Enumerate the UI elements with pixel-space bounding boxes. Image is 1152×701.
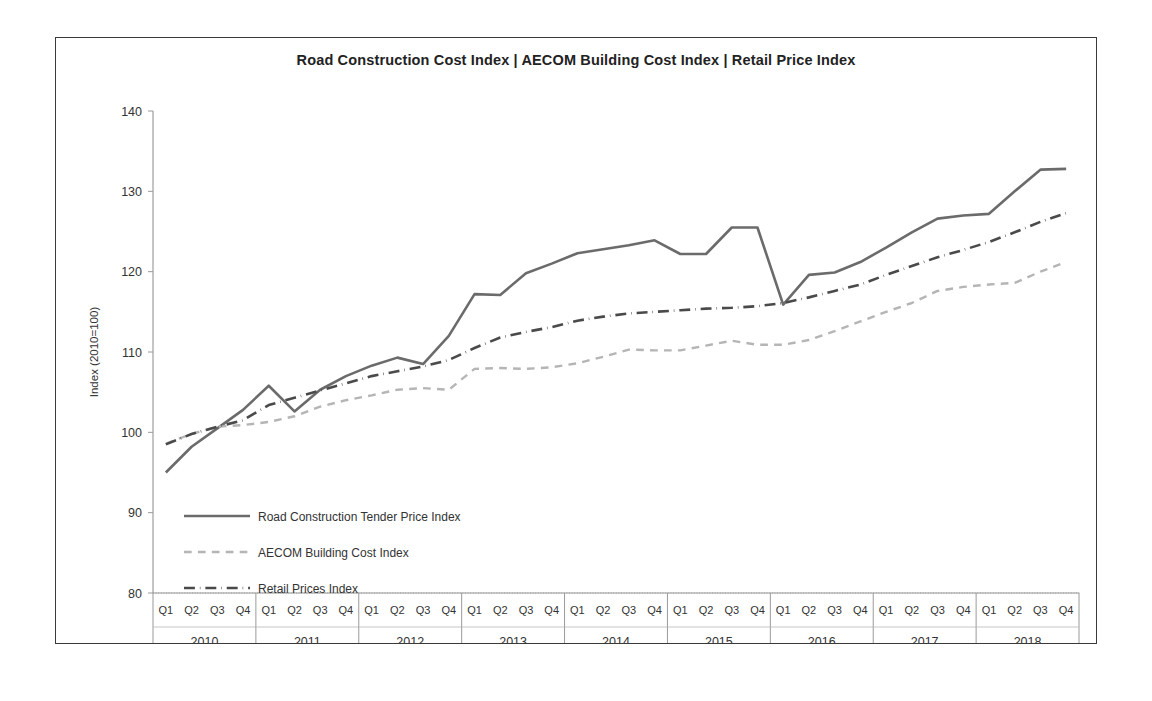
x-axis-quarter-label: Q4 (1059, 604, 1074, 616)
y-axis-tick-label: 90 (128, 506, 142, 520)
x-axis-year-label: 2013 (499, 635, 527, 643)
x-axis-quarter-label: Q1 (879, 604, 894, 616)
x-axis-quarter-label: Q1 (467, 604, 482, 616)
legend-label-0: Road Construction Tender Price Index (258, 510, 461, 524)
x-axis-year-label: 2017 (911, 635, 939, 643)
x-axis-quarter-label: Q4 (544, 604, 559, 616)
x-axis-year-label: 2014 (602, 635, 630, 643)
y-axis-tick-label: 130 (121, 185, 142, 199)
x-axis-quarter-label: Q2 (1007, 604, 1022, 616)
x-axis-quarter-label: Q2 (184, 604, 199, 616)
legend-label-1: AECOM Building Cost Index (258, 546, 409, 560)
x-axis-quarter-label: Q1 (364, 604, 379, 616)
y-axis-tick-label: 80 (128, 587, 142, 601)
series-line-1 (166, 262, 1066, 444)
x-axis-year-label: 2011 (294, 635, 321, 643)
x-axis-year-label: 2012 (396, 635, 424, 643)
x-axis-quarter-label: Q1 (261, 604, 276, 616)
x-axis-quarter-label: Q4 (236, 604, 251, 616)
x-axis-year-label: 2010 (191, 635, 219, 643)
x-axis-quarter-label: Q4 (339, 604, 354, 616)
x-axis-year-label: 2015 (705, 635, 733, 643)
x-axis-quarter-label: Q3 (827, 604, 842, 616)
chart-plot-area: 8090100110120130140Index (2010=100)Q1Q2Q… (56, 38, 1096, 643)
x-axis-quarter-label: Q1 (570, 604, 585, 616)
y-axis-tick-label: 140 (121, 105, 142, 119)
legend-label-2: Retail Prices Index (258, 582, 358, 596)
x-axis-quarter-label: Q2 (699, 604, 714, 616)
x-axis-quarter-label: Q1 (673, 604, 688, 616)
x-axis-quarter-label: Q3 (622, 604, 637, 616)
x-axis-quarter-label: Q4 (441, 604, 456, 616)
x-axis-quarter-label: Q3 (313, 604, 328, 616)
x-axis-quarter-label: Q2 (493, 604, 508, 616)
series-line-0 (166, 169, 1066, 473)
y-axis-tick-label: 100 (121, 426, 142, 440)
x-axis-quarter-label: Q4 (647, 604, 662, 616)
x-axis-quarter-label: Q1 (982, 604, 997, 616)
x-axis-year-label: 2018 (1014, 635, 1042, 643)
x-axis-quarter-label: Q3 (724, 604, 739, 616)
x-axis-quarter-label: Q2 (904, 604, 919, 616)
y-axis-tick-label: 120 (121, 265, 142, 279)
x-axis-quarter-label: Q2 (802, 604, 817, 616)
x-axis-quarter-label: Q3 (930, 604, 945, 616)
x-axis-quarter-label: Q3 (1033, 604, 1048, 616)
y-axis-tick-label: 110 (122, 346, 142, 360)
x-axis-quarter-label: Q1 (159, 604, 174, 616)
y-axis-title: Index (2010=100) (88, 307, 100, 398)
x-axis-quarter-label: Q2 (287, 604, 302, 616)
x-axis-quarter-label: Q3 (416, 604, 431, 616)
x-axis-quarter-label: Q4 (956, 604, 971, 616)
x-axis-quarter-label: Q3 (210, 604, 225, 616)
x-axis-year-label: 2016 (808, 635, 836, 643)
x-axis-quarter-label: Q1 (776, 604, 791, 616)
x-axis-quarter-label: Q4 (750, 604, 765, 616)
x-axis-quarter-label: Q2 (390, 604, 405, 616)
x-axis-quarter-label: Q4 (853, 604, 868, 616)
chart-figure: Road Construction Cost Index | AECOM Bui… (55, 37, 1097, 644)
x-axis-quarter-label: Q2 (596, 604, 611, 616)
x-axis-quarter-label: Q3 (519, 604, 534, 616)
